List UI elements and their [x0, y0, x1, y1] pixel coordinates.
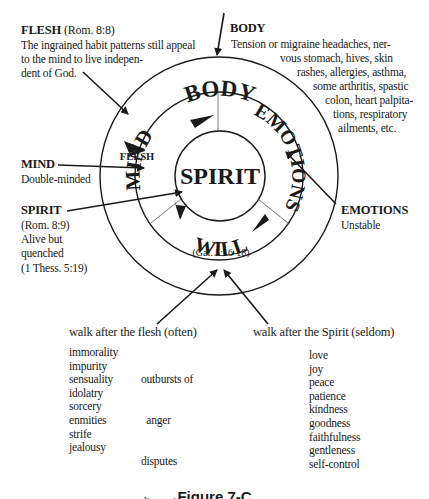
walk-flesh-heading: walk after the flesh (often) [69, 325, 197, 340]
body-title: BODY [230, 21, 428, 36]
walk-flesh-list-col1: immorality impurity sensuality idolatry … [69, 346, 118, 455]
flesh-work-item: jealousy [69, 441, 118, 455]
body-annotation: BODY [230, 21, 428, 36]
flesh-work-item: sorcery [69, 400, 118, 414]
spirit-line-4: (1 Thess. 5:19) [21, 261, 87, 275]
flesh-work-item: anger [141, 414, 196, 428]
body-line-4: some arthritis, spastic [313, 79, 408, 93]
spirit-fruit-item: gentleness [309, 444, 360, 458]
body-line-3: rashes, allergies, asthma, [297, 65, 406, 79]
walk-spirit-list: love joy peace patience kindness goodnes… [309, 349, 360, 471]
divider-lower-left [151, 199, 181, 223]
spirit-fruit-item: patience [309, 390, 360, 404]
body-line-1: Tension or migraine headaches, ner- [231, 37, 391, 51]
flesh-line-1: The ingrained habit patterns still appea… [21, 38, 221, 52]
flesh-work-item: immorality [69, 346, 118, 360]
spirit-fruit-item: joy [309, 363, 360, 377]
spirit-line-3: quenched [21, 246, 87, 260]
body-line-6: tions, respiratory [333, 107, 407, 121]
flesh-work-item: sensuality [69, 373, 118, 387]
mind-annotation: MIND Double-minded [21, 157, 91, 186]
mind-desc: Double-minded [21, 172, 91, 186]
emotions-desc: Unstable [341, 218, 408, 232]
flesh-annotation: FLESH (Rom. 8:8) The ingrained habit pat… [21, 23, 221, 81]
spirit-fruit-item: peace [309, 376, 360, 390]
flesh-line-3: dent of God. [21, 66, 221, 80]
walk-spirit-heading: walk after the Spirit (seldom) [253, 325, 394, 340]
spirit-annotation: SPIRIT (Rom. 8:9) Alive but quenched (1 … [21, 203, 87, 275]
spirit-fruit-item: love [309, 349, 360, 363]
body-line-7: ailments, etc. [338, 121, 396, 135]
spirit-title: SPIRIT [21, 203, 87, 218]
walk-spirit-pointer-arrow [224, 270, 268, 324]
flesh-work-item: idolatry [69, 387, 118, 401]
spirit-fruit-item: faithfulness [309, 431, 360, 445]
will-scripture-ref: (Gal. 5:16-18) [192, 247, 249, 259]
flesh-work-item: disputes [141, 455, 196, 469]
body-line-2: vous stomach, hives, skin [280, 51, 393, 65]
flesh-marker-label: FLESH [120, 151, 154, 162]
spirit-line-1: (Rom. 8:9) [21, 218, 87, 232]
flesh-title: FLESH [21, 23, 61, 37]
center-label-spirit: SPIRIT [180, 163, 260, 189]
walk-flesh-list-col2: outbursts of anger disputes dissensions … [141, 346, 196, 499]
flesh-work-item: impurity [69, 360, 118, 374]
body-line-5: colon, heart palpita- [325, 93, 413, 107]
cycle-arrow-mind-to-emotions-icon [190, 115, 214, 128]
figure-caption: Figure 7-C [0, 488, 429, 499]
walk-flesh-pointer-arrow [157, 270, 217, 324]
flesh-work-item: strife [69, 428, 118, 442]
mind-title: MIND [21, 157, 91, 172]
spirit-line-2: Alive but [21, 232, 87, 246]
flesh-work-item: enmities [69, 414, 118, 428]
flesh-ref: (Rom. 8:8) [64, 23, 115, 37]
emotions-title: EMOTIONS [341, 203, 408, 218]
flesh-work-item: outbursts of [141, 373, 196, 387]
emotions-annotation: EMOTIONS Unstable [341, 203, 408, 232]
flesh-line-2: to the mind to live indepen- [21, 52, 221, 66]
spirit-fruit-item: goodness [309, 417, 360, 431]
spirit-fruit-item: kindness [309, 403, 360, 417]
spirit-fruit-item: self-control [309, 458, 360, 472]
cycle-arrow-emotions-to-will-icon [252, 214, 269, 232]
